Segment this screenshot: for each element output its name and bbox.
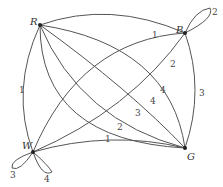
edge-label-wg: 1 (105, 134, 111, 144)
vertex-r (38, 23, 42, 27)
edge-label-ww-a: 3 (10, 170, 16, 180)
loop-w-b (33, 152, 52, 173)
edge-label-rg4: 4 (160, 85, 166, 95)
loop-w-a (12, 152, 33, 169)
edge-label-bg: 3 (199, 88, 205, 98)
edge-label-rb: 1 (152, 30, 158, 40)
edge-label-bb: 2 (212, 7, 218, 17)
vertex-label-w: W (22, 140, 33, 151)
edge-b-g (185, 33, 195, 148)
graph-diagram: R B W G 1 1 2 3 2 3 4 1 2 3 4 4 (0, 0, 223, 187)
vertex-label-r: R (29, 16, 38, 27)
edge-label-rg3: 4 (150, 96, 156, 106)
edge-label-ww-b: 4 (44, 174, 50, 184)
edge-label-rw: 1 (19, 85, 25, 95)
vertex-label-g: G (187, 151, 195, 162)
edge-r-b (40, 14, 185, 33)
vertex-g (183, 146, 187, 150)
edge-label-rg2: 3 (135, 108, 141, 118)
edge-r-w (23, 25, 40, 152)
loop-b (185, 8, 211, 33)
vertex-b (183, 31, 187, 35)
vertex-label-b: B (175, 24, 183, 35)
edge-label-bw: 2 (170, 59, 176, 69)
edge-label-rg1: 2 (117, 122, 123, 132)
